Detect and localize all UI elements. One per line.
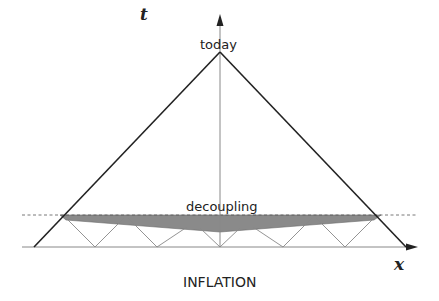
x-axis-arrow-icon <box>406 244 418 251</box>
today-label: today <box>200 37 237 52</box>
decoupling-label: decoupling <box>186 199 258 214</box>
t-axis-label: t <box>140 4 148 24</box>
t-axis-arrow-icon <box>217 14 224 26</box>
caption-inflation: INFLATION <box>183 274 256 290</box>
x-axis-label: x <box>394 254 404 274</box>
